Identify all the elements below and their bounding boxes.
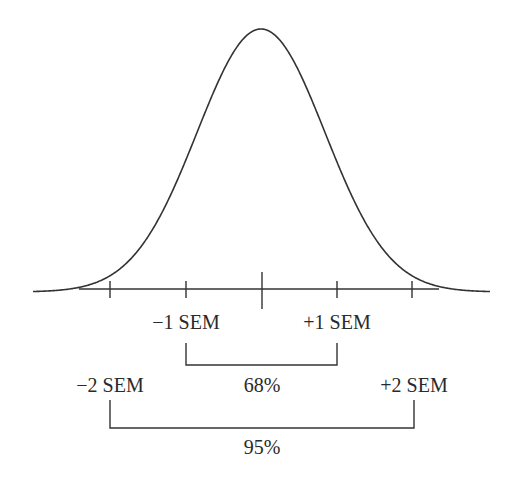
- label-minus-1-sem: −1 SEM: [152, 312, 219, 332]
- label-minus-2-sem: −2 SEM: [76, 375, 143, 395]
- normal-curve: [33, 29, 490, 292]
- diagram-canvas: [0, 0, 521, 482]
- bracket-95-percent: [110, 400, 414, 428]
- label-68-percent: 68%: [244, 375, 281, 395]
- bracket-68-percent: [186, 343, 337, 365]
- axis-ticks: [110, 272, 412, 309]
- label-95-percent: 95%: [244, 437, 281, 457]
- label-plus-1-sem: +1 SEM: [303, 312, 370, 332]
- sem-diagram: −1 SEM +1 SEM −2 SEM +2 SEM 68% 95%: [0, 0, 521, 482]
- label-plus-2-sem: +2 SEM: [380, 375, 447, 395]
